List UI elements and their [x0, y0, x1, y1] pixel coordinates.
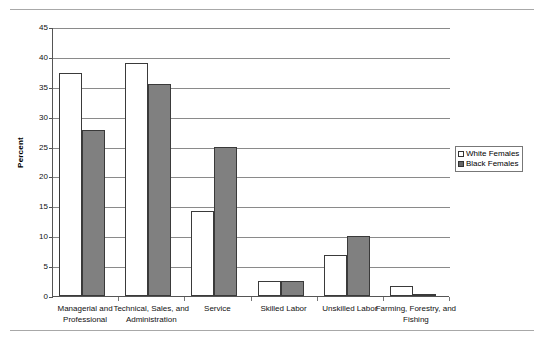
- gridline: [53, 177, 450, 178]
- legend-item: Black Females: [458, 159, 519, 169]
- gridline: [53, 88, 450, 89]
- y-axis-tick-mark: [49, 118, 53, 119]
- legend-item-label: White Females: [466, 149, 519, 159]
- bar: [413, 294, 436, 296]
- y-axis-title: Percent: [16, 123, 25, 183]
- gridline: [53, 237, 450, 238]
- legend-item-label: Black Females: [466, 159, 518, 169]
- y-axis-tick-mark: [49, 28, 53, 29]
- y-axis-tick-label: 10: [39, 233, 48, 241]
- x-axis-tick-mark: [184, 297, 185, 301]
- y-axis-tick-mark: [49, 177, 53, 178]
- y-axis-tick-label: 0: [44, 293, 48, 301]
- y-axis-tick-labels: 051015202530354045: [28, 28, 48, 297]
- gridline: [53, 58, 450, 59]
- y-axis-tick-label: 35: [39, 84, 48, 92]
- x-axis-tick-mark: [251, 297, 252, 301]
- bar: [214, 147, 237, 296]
- white-square-icon: [458, 151, 464, 157]
- x-axis-tick-mark: [449, 297, 450, 301]
- gridline: [53, 28, 450, 29]
- y-axis-tick-label: 15: [39, 203, 48, 211]
- bar: [82, 130, 105, 296]
- y-axis-tick-mark: [49, 58, 53, 59]
- x-axis-tick-mark: [118, 297, 119, 301]
- y-axis-tick-label: 5: [44, 263, 48, 271]
- page-root: Percent 051015202530354045 White Females…: [0, 0, 542, 345]
- y-axis-tick-label: 25: [39, 144, 48, 152]
- gridline: [53, 118, 450, 119]
- bar: [324, 255, 347, 296]
- y-axis-tick-label: 30: [39, 114, 48, 122]
- x-axis-tick-label: Farming, Forestry, and Fishing: [375, 303, 457, 325]
- y-axis-tick-mark: [49, 207, 53, 208]
- bar: [125, 63, 148, 296]
- y-axis-tick-mark: [49, 148, 53, 149]
- chart-legend: White FemalesBlack Females: [455, 146, 523, 172]
- bar-chart: Percent 051015202530354045 White Females…: [0, 0, 542, 345]
- bar: [191, 211, 214, 296]
- y-axis-tick-label: 20: [39, 173, 48, 181]
- bar: [281, 281, 304, 296]
- y-axis-tick-mark: [49, 267, 53, 268]
- y-axis-tick-label: 40: [39, 54, 48, 62]
- gridline: [53, 267, 450, 268]
- y-axis-tick-label: 45: [39, 24, 48, 32]
- bar: [347, 236, 370, 296]
- y-axis-tick-mark: [49, 88, 53, 89]
- x-axis-tick-mark: [317, 297, 318, 301]
- y-axis-tick-mark: [49, 237, 53, 238]
- bar: [59, 73, 82, 296]
- plot-area: [52, 28, 449, 297]
- x-axis-tick-mark: [383, 297, 384, 301]
- bar: [148, 84, 171, 296]
- legend-item: White Females: [458, 149, 519, 159]
- bar: [390, 286, 413, 296]
- black-square-icon: [458, 161, 464, 167]
- y-axis-tick-mark: [49, 297, 53, 298]
- bar: [258, 281, 281, 296]
- gridline: [53, 148, 450, 149]
- gridline: [53, 207, 450, 208]
